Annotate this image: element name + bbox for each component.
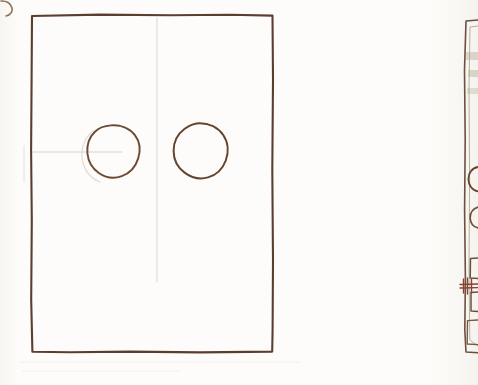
adjacent-drawing-fragment xyxy=(460,20,478,353)
drawing-canvas xyxy=(0,0,478,385)
circle-opening-left xyxy=(87,125,139,177)
right-panel-circle-lower xyxy=(470,207,478,228)
right-panel-smudge-upper xyxy=(466,52,478,60)
right-panel-bracket-lower xyxy=(467,320,478,345)
construction-guides-group xyxy=(33,18,157,282)
latch-stroke-h1 xyxy=(460,284,478,285)
drawing-sheet xyxy=(0,0,478,385)
circle-opening-right xyxy=(174,123,228,178)
right-panel-bracket-middle xyxy=(471,292,478,311)
main-panel-outline xyxy=(31,15,273,353)
corner-arc-fragment xyxy=(1,1,12,16)
ghost-marks-group xyxy=(20,131,300,371)
ghost-arc-behind-left-circle xyxy=(82,131,100,182)
right-panel-bracket-upper xyxy=(470,258,478,278)
